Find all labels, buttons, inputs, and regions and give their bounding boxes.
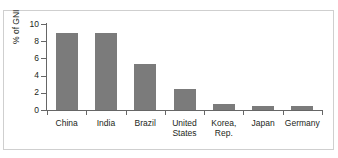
x-axis-tick	[126, 111, 127, 115]
bar	[56, 33, 78, 110]
x-axis-tick	[322, 111, 323, 115]
y-axis-tick	[41, 76, 46, 77]
x-axis-category-label-line: Rep.	[204, 128, 243, 138]
x-axis-category-label-line: India	[86, 118, 125, 128]
y-axis-line	[46, 23, 47, 111]
x-axis-tick	[204, 111, 205, 115]
bar	[252, 106, 274, 110]
y-axis-tick	[41, 110, 46, 111]
x-axis-tick	[47, 111, 48, 115]
bar	[174, 89, 196, 111]
x-axis-category-label: UnitedStates	[165, 118, 204, 138]
y-axis-tick-label: 4	[21, 71, 39, 80]
x-axis-category-label-line: Japan	[243, 118, 282, 128]
y-axis-title: % of GNI	[12, 0, 21, 44]
x-axis-category-label: China	[47, 118, 86, 128]
x-axis-category-label-line: Korea,	[204, 118, 243, 128]
x-axis-category-label-line: Germany	[283, 118, 322, 128]
x-axis-category-label: India	[86, 118, 125, 128]
y-axis-tick	[41, 93, 46, 94]
x-axis-tick	[243, 111, 244, 115]
bar	[95, 33, 117, 110]
y-axis-tick-label: 8	[21, 37, 39, 46]
x-axis-category-label-line: China	[47, 118, 86, 128]
y-axis-tick-label: 6	[21, 54, 39, 63]
x-axis-tick	[283, 111, 284, 115]
x-axis-category-label: Brazil	[126, 118, 165, 128]
x-axis-category-label-line: United	[165, 118, 204, 128]
bar	[291, 106, 313, 110]
chart-figure: % of GNI 0246810 ChinaIndiaBrazilUnitedS…	[0, 0, 338, 158]
bar	[213, 104, 235, 110]
y-axis-tick	[41, 41, 46, 42]
y-axis-tick	[41, 24, 46, 25]
y-axis-tick-label: 0	[21, 106, 39, 115]
x-axis-category-label-line: States	[165, 128, 204, 138]
x-axis-category-label-line: Brazil	[126, 118, 165, 128]
x-axis-category-label: Korea,Rep.	[204, 118, 243, 138]
bar	[134, 64, 156, 110]
x-axis-category-label: Germany	[283, 118, 322, 128]
x-axis-category-label: Japan	[243, 118, 282, 128]
y-axis-tick-label: 2	[21, 88, 39, 97]
y-axis-tick	[41, 58, 46, 59]
x-axis-tick	[86, 111, 87, 115]
x-axis-tick	[165, 111, 166, 115]
y-axis-tick-label: 10	[21, 20, 39, 29]
x-axis-line	[46, 110, 323, 111]
